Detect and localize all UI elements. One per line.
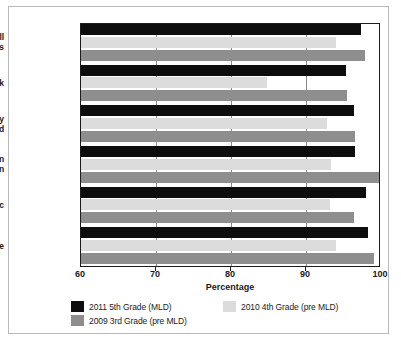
legend-swatch-2010-icon	[223, 301, 236, 312]
legend-item-2011: 2011 5th Grade (MLD)	[71, 301, 223, 312]
category-label-3: AfricanAmerican	[0, 154, 4, 174]
category-label-0: AllStudents	[0, 32, 4, 52]
bar-group	[81, 24, 379, 65]
bar	[81, 227, 368, 238]
bar	[81, 90, 347, 101]
bar	[81, 50, 365, 61]
bar	[81, 172, 379, 183]
category-label-2: EconomicallyDisadvantaged	[0, 114, 4, 134]
bar	[81, 159, 331, 170]
category-label-line: American	[0, 164, 4, 174]
legend-label-2010: 2010 4th Grade (pre MLD)	[241, 302, 338, 312]
category-label-line: At Risk	[0, 78, 4, 88]
legend-swatch-2009-icon	[71, 315, 84, 326]
bar-group	[81, 187, 379, 228]
x-tick-label: 80	[225, 269, 235, 279]
category-label-line: White	[0, 241, 4, 251]
bar	[81, 105, 354, 116]
bar	[81, 24, 361, 35]
x-tick-label: 60	[75, 269, 85, 279]
bar	[81, 240, 336, 251]
bar-group	[81, 65, 379, 106]
plot-inner	[81, 24, 379, 266]
x-tick-label: 100	[372, 269, 387, 279]
x-axis-title: Percentage	[80, 282, 380, 292]
chart-figure: AllStudentsAt RiskEconomicallyDisadvanta…	[8, 6, 389, 334]
legend-swatch-2011-icon	[71, 301, 84, 312]
bar	[81, 37, 336, 48]
legend-label-2011: 2011 5th Grade (MLD)	[89, 302, 171, 312]
bar	[81, 146, 355, 157]
category-label-5: White	[0, 241, 4, 251]
category-label-line: Students	[0, 42, 4, 52]
legend-label-2009: 2009 3rd Grade (pre MLD)	[89, 316, 187, 326]
bar-group	[81, 227, 379, 266]
legend-row: 2011 5th Grade (MLD) 2010 4th Grade (pre…	[71, 301, 371, 312]
bar	[81, 199, 330, 210]
category-label-line: Economically	[0, 114, 4, 124]
bar-group	[81, 105, 379, 146]
bar	[81, 118, 327, 129]
bar	[81, 131, 355, 142]
bar	[81, 212, 354, 223]
bar-group	[81, 146, 379, 187]
bar	[81, 77, 267, 88]
bar	[81, 187, 366, 198]
category-label-line: Hispanic	[0, 200, 4, 210]
legend-row: 2009 3rd Grade (pre MLD)	[71, 315, 371, 326]
category-label-line: All	[0, 32, 4, 42]
category-label-4: Hispanic	[0, 200, 4, 210]
legend-item-2010: 2010 4th Grade (pre MLD)	[223, 301, 338, 312]
category-label-1: At Risk	[0, 78, 4, 88]
plot-area	[80, 23, 380, 267]
category-label-line: Disadvantaged	[0, 124, 4, 134]
chart-legend: 2011 5th Grade (MLD) 2010 4th Grade (pre…	[71, 301, 371, 329]
x-tick-label: 70	[150, 269, 160, 279]
bar	[81, 253, 374, 264]
legend-item-2009: 2009 3rd Grade (pre MLD)	[71, 315, 223, 326]
bar	[81, 65, 346, 76]
category-label-line: African	[0, 154, 4, 164]
x-tick-label: 90	[300, 269, 310, 279]
